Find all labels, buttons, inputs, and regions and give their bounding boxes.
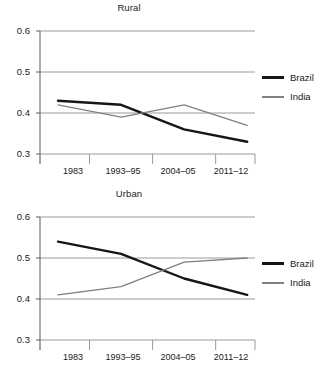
- x-tick-label: 2011–12: [196, 166, 266, 176]
- legend-line-swatch-india: [262, 282, 284, 284]
- y-tick-label: 0.3: [0, 335, 30, 345]
- legend-line-swatch-brazil: [262, 76, 284, 79]
- y-tick-label: 0.4: [0, 108, 30, 118]
- legend-label-brazil: Brazil: [290, 72, 314, 83]
- legend-item-india: India: [262, 273, 336, 292]
- legend-item-brazil: Brazil: [262, 254, 336, 273]
- legend-urban: Brazil India: [262, 254, 336, 292]
- y-tick-label: 0.3: [0, 149, 30, 159]
- data-series-line-brazil: [58, 101, 247, 142]
- dual-line-chart-figure: Rural 0.6 0.5 0.4 0.3 1983 1993–95 2004–…: [0, 0, 336, 371]
- legend-label-india: India: [290, 277, 311, 288]
- y-tick-label: 0.6: [0, 212, 30, 222]
- x-tick-label: 2011–12: [196, 352, 266, 362]
- legend-rural: Brazil India: [262, 68, 336, 106]
- data-series-line-india: [58, 258, 247, 295]
- y-tick-label: 0.5: [0, 253, 30, 263]
- y-tick-label: 0.4: [0, 294, 30, 304]
- plot-area-rural: 0.6 0.5 0.4 0.3: [0, 16, 262, 164]
- legend-item-brazil: Brazil: [262, 68, 336, 87]
- data-series-line-india: [58, 105, 247, 126]
- plot-area-urban: 0.6 0.5 0.4 0.3: [0, 202, 262, 350]
- legend-item-india: India: [262, 87, 336, 106]
- data-series-line-brazil: [58, 242, 247, 295]
- plot-svg-urban: [0, 202, 262, 350]
- y-tick-label: 0.6: [0, 26, 30, 36]
- page-title-urban: Urban: [0, 188, 258, 199]
- legend-line-swatch-brazil: [262, 262, 284, 265]
- legend-label-india: India: [290, 91, 311, 102]
- legend-line-swatch-india: [262, 96, 284, 98]
- y-tick-label: 0.5: [0, 67, 30, 77]
- legend-label-brazil: Brazil: [290, 258, 314, 269]
- plot-svg-rural: [0, 16, 262, 164]
- page-title-rural: Rural: [0, 2, 258, 13]
